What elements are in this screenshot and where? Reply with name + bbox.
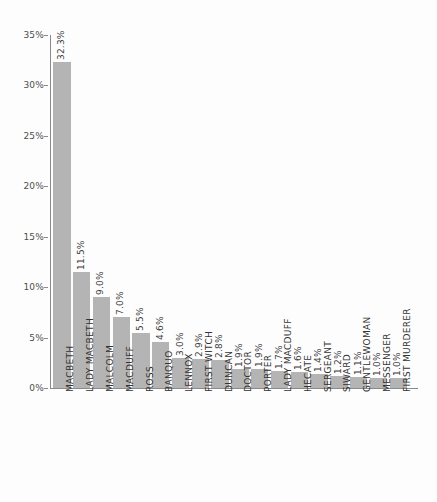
bar-value-label: 4.6% [155, 316, 165, 340]
y-axis-tick-mark [44, 388, 48, 389]
bar-value-label: 5.5% [135, 307, 145, 331]
x-axis-category-label: GENTLEWOMAN [362, 316, 372, 392]
y-axis-tick-label: 20% [23, 181, 44, 191]
x-axis-category-label: MACDUFF [125, 346, 135, 392]
bar-value-label: 32.3% [56, 31, 66, 61]
bar-value-label: 1.6% [293, 346, 303, 370]
y-axis-tick-mark [44, 287, 48, 288]
bar-value-label: 1.0% [372, 352, 382, 376]
y-axis-tick-labels: 35%30%25%20%15%10%5%0% [0, 35, 44, 389]
bar-value-label: 3.0% [175, 332, 185, 356]
x-axis-category-label: MALCOLM [105, 345, 115, 392]
x-axis-category-label: LENNOX [184, 353, 194, 392]
x-axis-category-label: ROSS [145, 366, 155, 392]
bar-value-label: 2.8% [214, 334, 224, 358]
x-axis-category-label: FIRST WITCH [204, 331, 214, 392]
y-axis-tick-label: 25% [23, 131, 44, 141]
x-axis-category-label: BANQUO [164, 350, 174, 392]
x-axis-category-label: DOCTOR [243, 351, 253, 392]
bar: 32.3% [53, 62, 70, 388]
bar-value-label: 7.0% [115, 292, 125, 316]
x-axis-category-label: SERGEANT [323, 341, 333, 392]
y-axis-tick-mark [44, 85, 48, 86]
y-axis-tick-mark [44, 338, 48, 339]
x-axis-category-label: MACBETH [65, 346, 75, 392]
bar-value-label: 1.0% [392, 352, 402, 376]
y-axis-tick-label: 0% [29, 383, 44, 393]
y-axis-tick-label: 30% [23, 80, 44, 90]
x-axis-category-label: MESSENGER [382, 333, 392, 392]
x-axis-category-label: PORTER [263, 355, 273, 392]
bar-value-label: 11.5% [76, 240, 86, 270]
y-axis-tick-mark [44, 35, 48, 36]
bar-value-label: 1.4% [313, 348, 323, 372]
x-axis-category-label: LADY MACDUFF [283, 318, 293, 392]
x-axis-category-label: SIWARD [342, 354, 352, 392]
y-axis-tick-label: 10% [23, 282, 44, 292]
x-axis-category-label: LADY MACBETH [85, 318, 95, 392]
y-axis-tick-label: 35% [23, 30, 44, 40]
x-axis-category-label: FIRST MURDERER [402, 308, 412, 392]
bar-value-label: 9.0% [95, 272, 105, 296]
y-axis-tick-mark [44, 186, 48, 187]
bar-chart: 35%30%25%20%15%10%5%0% 32.3%11.5%9.0%7.0… [0, 0, 437, 502]
bar-value-label: 1.7% [274, 345, 284, 369]
x-axis-category-label: DUNCAN [224, 351, 234, 392]
y-axis-tick-mark [44, 237, 48, 238]
x-axis-category-label: HECATE [303, 355, 313, 392]
y-axis-tick-label: 5% [29, 333, 44, 343]
y-axis-tick-label: 15% [23, 232, 44, 242]
x-axis-category-labels: MACBETHLADY MACBETHMALCOLMMACDUFFROSSBAN… [50, 392, 418, 502]
bar-value-label: 2.9% [194, 333, 204, 357]
y-axis-tick-mark [44, 136, 48, 137]
